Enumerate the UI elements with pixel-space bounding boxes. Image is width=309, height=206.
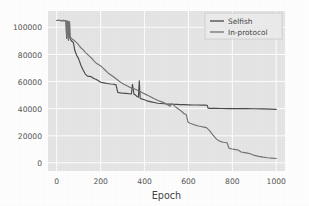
y-tick-label: 20000: [18, 132, 42, 141]
x-tick-label: 1000: [267, 177, 286, 186]
y-tick-label: 100000: [13, 23, 42, 32]
y-tick-label: 40000: [18, 105, 42, 114]
legend-label: In-protocol: [228, 28, 268, 37]
x-tick-label: 0: [54, 177, 59, 186]
x-tick-label: 200: [93, 177, 108, 186]
x-tick-label: 400: [137, 177, 152, 186]
x-tick-label: 800: [225, 177, 240, 186]
y-tick-label: 0: [37, 159, 42, 168]
legend: SelfishIn-protocol: [205, 13, 282, 39]
chart-figure: 0200004000060000800001000000200400600800…: [0, 0, 309, 206]
x-axis-label: Epoch: [152, 190, 181, 201]
x-tick-label: 600: [181, 177, 196, 186]
y-tick-label: 80000: [18, 51, 42, 60]
legend-label: Selfish: [228, 17, 253, 26]
line-chart: 0200004000060000800001000000200400600800…: [0, 0, 309, 206]
y-tick-label: 60000: [18, 78, 42, 87]
